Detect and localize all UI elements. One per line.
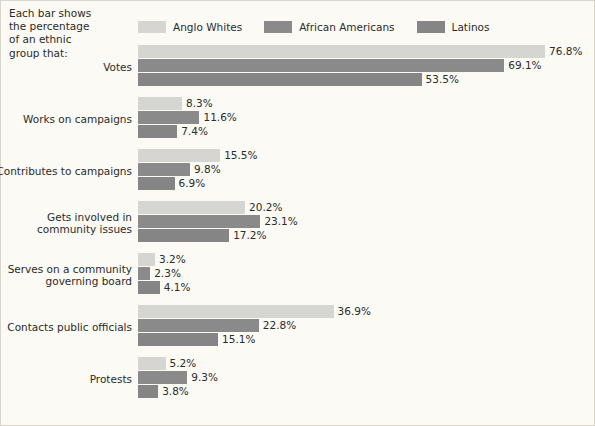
category-label: Gets involved incommunity issues (1, 201, 132, 245)
legend-item-label: Latinos (452, 21, 490, 33)
chart-note-line: Each bar shows (9, 7, 129, 20)
bar-african-americans[interactable] (138, 215, 260, 228)
bar-row: 8.3% (138, 97, 595, 110)
bar-group-bars: 36.9%22.8%15.1% (138, 305, 595, 349)
bar-value-label: 3.8% (158, 384, 189, 398)
bar-latinos[interactable] (138, 177, 175, 190)
bar-row: 69.1% (138, 59, 595, 72)
category-label-line: community issues (37, 223, 132, 236)
bar-row: 9.8% (138, 163, 595, 176)
category-label-line: Contacts public officials (7, 321, 132, 334)
bar-row: 23.1% (138, 215, 595, 228)
bar-group-bars: 8.3%11.6%7.4% (138, 97, 595, 141)
bar-value-label: 6.9% (175, 176, 206, 190)
legend-item-label: African Americans (299, 21, 394, 33)
bar-group-bars: 5.2%9.3%3.8% (138, 357, 595, 401)
bar-group-bars: 15.5%9.8%6.9% (138, 149, 595, 193)
bar-group: Contacts public officials36.9%22.8%15.1% (1, 305, 595, 349)
bar-anglo-whites[interactable] (138, 149, 220, 162)
bar-value-label: 15.1% (218, 332, 255, 346)
bar-row: 17.2% (138, 229, 595, 242)
bar-latinos[interactable] (138, 281, 160, 294)
bar-anglo-whites[interactable] (138, 45, 545, 58)
bar-group-bars: 3.2%2.3%4.1% (138, 253, 595, 297)
bar-latinos[interactable] (138, 125, 177, 138)
category-label: Works on campaigns (1, 97, 132, 141)
bar-value-label: 9.8% (190, 162, 221, 176)
bar-latinos[interactable] (138, 229, 229, 242)
bar-row: 2.3% (138, 267, 595, 280)
category-label: Serves on a communitygoverning board (1, 253, 132, 297)
bar-row: 11.6% (138, 111, 595, 124)
bar-row: 22.8% (138, 319, 595, 332)
bar-value-label: 22.8% (259, 318, 296, 332)
bar-value-label: 2.3% (150, 266, 181, 280)
category-label-line: governing board (46, 275, 132, 288)
bar-african-americans[interactable] (138, 319, 259, 332)
bar-row: 20.2% (138, 201, 595, 214)
legend-swatch-icon (264, 21, 292, 33)
category-label-line: Contributes to campaigns (0, 165, 132, 178)
bar-african-americans[interactable] (138, 163, 190, 176)
bar-group-bars: 76.8%69.1%53.5% (138, 45, 595, 89)
category-label: Votes (1, 45, 132, 89)
bar-row: 3.8% (138, 385, 595, 398)
category-label: Protests (1, 357, 132, 401)
legend-item-1[interactable]: Anglo Whites (138, 21, 242, 33)
bar-anglo-whites[interactable] (138, 357, 166, 370)
bar-anglo-whites[interactable] (138, 305, 334, 318)
bar-value-label: 23.1% (260, 214, 297, 228)
category-label-line: Votes (103, 61, 132, 74)
bar-anglo-whites[interactable] (138, 253, 155, 266)
bar-value-label: 5.2% (166, 356, 197, 370)
bar-african-americans[interactable] (138, 59, 504, 72)
bar-row: 9.3% (138, 371, 595, 384)
bar-group: Votes76.8%69.1%53.5% (1, 45, 595, 89)
bar-group: Gets involved incommunity issues20.2%23.… (1, 201, 595, 245)
bar-latinos[interactable] (138, 333, 218, 346)
legend-item-label: Anglo Whites (173, 21, 242, 33)
bar-african-americans[interactable] (138, 111, 199, 124)
bar-value-label: 53.5% (422, 72, 459, 86)
legend-item-2[interactable]: African Americans (264, 21, 394, 33)
bar-row: 15.5% (138, 149, 595, 162)
bar-latinos[interactable] (138, 73, 422, 86)
bar-value-label: 36.9% (334, 304, 371, 318)
bar-group: Works on campaigns8.3%11.6%7.4% (1, 97, 595, 141)
bar-value-label: 69.1% (504, 58, 541, 72)
category-label-line: Works on campaigns (23, 113, 132, 126)
category-label: Contacts public officials (1, 305, 132, 349)
chart-plot-area: Votes76.8%69.1%53.5%Works on campaigns8.… (1, 45, 594, 425)
bar-anglo-whites[interactable] (138, 97, 182, 110)
bar-value-label: 76.8% (545, 44, 582, 58)
bar-group-bars: 20.2%23.1%17.2% (138, 201, 595, 245)
bar-value-label: 15.5% (220, 148, 257, 162)
category-label: Contributes to campaigns (1, 149, 132, 193)
bar-row: 6.9% (138, 177, 595, 190)
category-label-line: Gets involved in (47, 211, 132, 224)
bar-anglo-whites[interactable] (138, 201, 245, 214)
bar-african-americans[interactable] (138, 267, 150, 280)
legend-swatch-icon (138, 21, 166, 33)
chart-legend: Anglo WhitesAfrican AmericansLatinos (138, 19, 511, 35)
bar-row: 15.1% (138, 333, 595, 346)
bar-latinos[interactable] (138, 385, 158, 398)
category-label-line: Serves on a community (8, 263, 132, 276)
bar-value-label: 4.1% (160, 280, 191, 294)
bar-group: Contributes to campaigns15.5%9.8%6.9% (1, 149, 595, 193)
legend-item-3[interactable]: Latinos (417, 21, 490, 33)
bar-row: 3.2% (138, 253, 595, 266)
bar-row: 53.5% (138, 73, 595, 86)
bar-row: 76.8% (138, 45, 595, 58)
bar-african-americans[interactable] (138, 371, 187, 384)
bar-value-label: 3.2% (155, 252, 186, 266)
bar-value-label: 11.6% (199, 110, 236, 124)
chart-note-line: the percentage (9, 20, 129, 33)
legend-swatch-icon (417, 21, 445, 33)
bar-row: 4.1% (138, 281, 595, 294)
bar-value-label: 17.2% (229, 228, 266, 242)
bar-value-label: 7.4% (177, 124, 208, 138)
bar-value-label: 20.2% (245, 200, 282, 214)
bar-group: Protests5.2%9.3%3.8% (1, 357, 595, 401)
category-label-line: Protests (90, 373, 132, 386)
